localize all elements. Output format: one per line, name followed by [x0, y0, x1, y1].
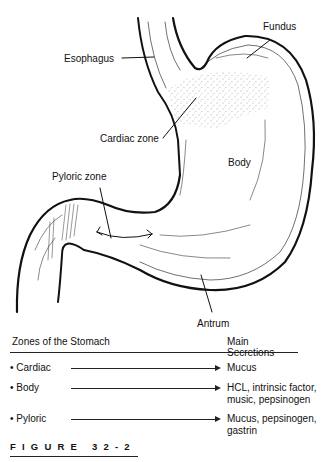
secretions: Mucus, pepsinogen, gastrin [227, 413, 323, 437]
figure-caption: FIGURE 32-2 [10, 441, 136, 452]
header-secretions: Main Secretions [227, 336, 298, 358]
secretions: Mucus [227, 362, 323, 374]
stomach-illustration [0, 0, 323, 330]
label-esophagus: Esophagus [64, 53, 114, 64]
label-fundus: Fundus [263, 21, 296, 32]
zones-table-header: Zones of the Stomach Main Secretions [10, 336, 298, 353]
label-cardiac-zone: Cardiac zone [100, 133, 159, 144]
arrow-icon [71, 368, 219, 369]
label-pyloric-zone: Pyloric zone [52, 171, 106, 182]
zone-name: • Pyloric [10, 413, 46, 425]
secretions: HCL, intrinsic factor, music, pepsinogen [227, 382, 323, 406]
arrow-icon [71, 419, 219, 420]
label-antrum: Antrum [197, 318, 229, 329]
caption-divider [10, 456, 138, 457]
arrow-icon [71, 388, 219, 389]
label-body: Body [228, 157, 251, 168]
header-zones: Zones of the Stomach [12, 336, 110, 347]
zone-name: • Cardiac [10, 362, 51, 374]
zone-name: • Body [10, 382, 39, 394]
